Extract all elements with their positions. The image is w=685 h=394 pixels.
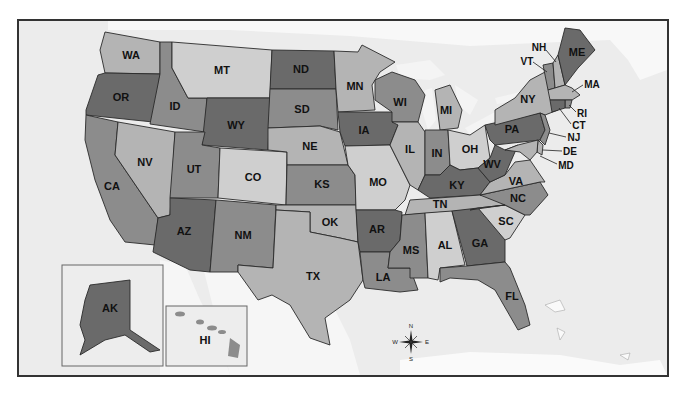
svg-text:KS: KS — [314, 178, 329, 190]
state-SD[interactable]: SD — [268, 89, 338, 130]
svg-text:OK: OK — [322, 216, 339, 228]
svg-text:AL: AL — [438, 239, 453, 251]
state-RI[interactable]: RI — [565, 100, 587, 119]
state-MT[interactable]: MT — [172, 42, 272, 98]
svg-text:AR: AR — [369, 223, 385, 235]
md-leader-line — [540, 156, 557, 164]
svg-text:NM: NM — [234, 229, 251, 241]
svg-text:LA: LA — [376, 271, 391, 283]
state-FL[interactable]: FL — [440, 262, 530, 330]
state-KS[interactable]: KS — [286, 165, 356, 205]
svg-text:WA: WA — [122, 49, 140, 61]
alaska-inset: AK — [62, 265, 163, 366]
svg-text:DE: DE — [563, 146, 577, 157]
de-leader-line — [543, 150, 562, 151]
state-CO[interactable]: CO — [218, 148, 287, 205]
svg-text:NY: NY — [520, 93, 536, 105]
svg-text:SD: SD — [294, 103, 309, 115]
svg-text:TX: TX — [306, 270, 321, 282]
svg-text:CA: CA — [104, 180, 120, 192]
nj-leader-line — [549, 133, 566, 137]
caribbean-island — [620, 353, 630, 360]
svg-text:NJ: NJ — [568, 132, 581, 143]
bahamas-island-2 — [557, 328, 565, 340]
svg-text:WV: WV — [483, 158, 501, 170]
svg-text:IL: IL — [405, 143, 415, 155]
svg-text:VT: VT — [521, 56, 534, 67]
state-WA[interactable]: WA — [100, 32, 160, 74]
svg-text:FL: FL — [505, 290, 519, 302]
svg-text:N: N — [409, 323, 413, 329]
state-OR[interactable]: OR — [86, 73, 160, 122]
svg-text:W: W — [392, 339, 398, 345]
svg-text:NE: NE — [302, 140, 317, 152]
nh-leader-line — [546, 50, 556, 62]
svg-text:E: E — [425, 339, 429, 345]
us-map-frame: WA OR CA ID NV MT WY UT AZ CO NM ND SD N… — [17, 19, 669, 377]
svg-text:WI: WI — [393, 96, 406, 108]
svg-text:NV: NV — [137, 156, 153, 168]
compass-rose-icon: N S E W — [392, 323, 429, 362]
svg-text:WY: WY — [227, 119, 245, 131]
svg-text:IA: IA — [359, 124, 370, 136]
svg-text:OR: OR — [113, 91, 130, 103]
svg-text:AZ: AZ — [177, 225, 192, 237]
svg-text:VA: VA — [509, 175, 524, 187]
ct-leader-line — [559, 108, 571, 124]
svg-text:OH: OH — [462, 143, 479, 155]
svg-text:AK: AK — [102, 302, 118, 314]
hawaii-inset: HI — [166, 306, 247, 366]
us-map: WA OR CA ID NV MT WY UT AZ CO NM ND SD N… — [19, 21, 667, 375]
state-NM[interactable]: NM — [210, 200, 276, 272]
svg-text:MD: MD — [558, 160, 574, 171]
svg-text:MO: MO — [369, 176, 387, 188]
svg-text:TN: TN — [433, 198, 448, 210]
bahamas-island — [545, 300, 565, 312]
svg-text:HI: HI — [200, 334, 211, 346]
svg-text:RI: RI — [577, 108, 587, 119]
svg-text:UT: UT — [187, 163, 202, 175]
svg-text:NH: NH — [532, 42, 546, 53]
svg-text:ID: ID — [170, 100, 181, 112]
svg-text:CT: CT — [572, 120, 585, 131]
ri-leader-line — [569, 105, 576, 112]
svg-text:NC: NC — [510, 192, 526, 204]
svg-text:MN: MN — [346, 80, 363, 92]
ma-leader-line — [572, 85, 583, 92]
state-WY[interactable]: WY — [202, 98, 270, 150]
svg-text:GA: GA — [472, 237, 489, 249]
svg-text:PA: PA — [505, 123, 520, 135]
svg-text:MI: MI — [440, 104, 452, 116]
state-IA[interactable]: IA — [338, 112, 398, 146]
svg-text:S: S — [409, 356, 413, 362]
svg-text:KY: KY — [449, 179, 465, 191]
svg-text:MS: MS — [403, 244, 420, 256]
svg-text:ME: ME — [569, 46, 586, 58]
svg-text:MT: MT — [214, 64, 230, 76]
svg-text:ND: ND — [293, 63, 309, 75]
state-ND[interactable]: ND — [270, 50, 336, 89]
svg-text:CO: CO — [245, 171, 262, 183]
svg-text:MA: MA — [584, 79, 600, 90]
svg-text:IN: IN — [432, 147, 443, 159]
svg-text:SC: SC — [498, 215, 513, 227]
